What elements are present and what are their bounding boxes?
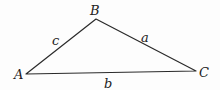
side-label-a: a [141,30,149,45]
side-label-b: b [104,76,112,90]
side-label-c: c [52,33,60,48]
triangle-diagram: A B C a b c [0,0,220,90]
vertex-label-a: A [13,67,23,82]
vertex-label-c: C [199,65,209,80]
vertex-label-b: B [89,3,100,18]
triangle-canvas: A B C a b c [0,0,220,90]
